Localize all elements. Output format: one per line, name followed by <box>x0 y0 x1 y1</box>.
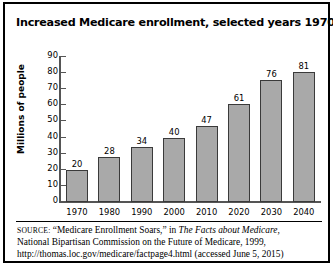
bar-group-2040: 81 <box>293 56 325 202</box>
x-tick-label-1970: 1970 <box>61 207 93 217</box>
bar-group-2020: 61 <box>228 56 260 202</box>
x-tick-label-2000: 2000 <box>158 207 190 217</box>
x-tick-label-2010: 2010 <box>191 207 223 217</box>
x-tick-label-1990: 1990 <box>126 207 158 217</box>
y-tick-label: 60 <box>47 98 58 108</box>
bar-value-1970: 20 <box>66 159 88 169</box>
y-tick-label: 20 <box>47 163 58 173</box>
y-tick-label: 40 <box>47 131 58 141</box>
y-tick-label: 10 <box>47 179 58 189</box>
source-note: SOURCE: “Medicare Enrollment Soars,” in … <box>17 225 325 260</box>
figure-container: Increased Medicare enrollment, selected … <box>0 0 333 266</box>
y-tick-label: 0 <box>53 195 58 205</box>
y-tick-label: 30 <box>47 147 58 157</box>
bar-value-1990: 34 <box>131 136 153 146</box>
source-label: SOURCE: <box>17 226 50 235</box>
bar-2030 <box>260 80 282 202</box>
bar-1970 <box>66 170 88 202</box>
source-line1-prefix: “Medicare Enrollment Soars,” in <box>50 225 178 235</box>
x-tick-label-2030: 2030 <box>255 207 287 217</box>
y-tick-label: 90 <box>47 50 58 60</box>
bar-2040 <box>293 72 315 203</box>
x-tick-label-2020: 2020 <box>223 207 255 217</box>
bar-value-2040: 81 <box>293 61 315 71</box>
chart-plot-area: Millions of people 0102030405060708090 2… <box>5 4 332 219</box>
bar-1980 <box>98 157 120 202</box>
source-divider <box>16 221 322 222</box>
bar-2010 <box>196 126 218 202</box>
y-axis-label: Millions of people <box>16 49 26 169</box>
bar-group-1980: 28 <box>98 56 130 202</box>
bar-1990 <box>131 147 153 202</box>
x-tick-label-2040: 2040 <box>288 207 320 217</box>
source-line3: http://thomas.loc.gov/medicare/factpage4… <box>17 249 284 259</box>
bar-value-2000: 40 <box>163 127 185 137</box>
bar-value-2030: 76 <box>260 69 282 79</box>
bar-group-2010: 47 <box>196 56 228 202</box>
bar-2020 <box>228 104 250 202</box>
bar-value-2010: 47 <box>196 115 218 125</box>
bar-group-1970: 20 <box>66 56 98 202</box>
y-tick-label: 80 <box>47 66 58 76</box>
bar-value-1980: 28 <box>98 146 120 156</box>
source-publication-title: The Facts about Medicare, <box>179 225 280 235</box>
y-tick-label: 50 <box>47 114 58 124</box>
figure-frame: Increased Medicare enrollment, selected … <box>3 2 330 263</box>
bar-2000 <box>163 138 185 202</box>
bar-group-1990: 34 <box>131 56 163 202</box>
y-tick-label: 70 <box>47 82 58 92</box>
x-tick-label-1980: 1980 <box>93 207 125 217</box>
bar-group-2000: 40 <box>163 56 195 202</box>
source-line2: National Bipartisan Commission on the Fu… <box>17 237 266 247</box>
bars-layer: 2028344047617681 <box>61 56 321 202</box>
bar-value-2020: 61 <box>228 93 250 103</box>
bar-group-2030: 76 <box>260 56 292 202</box>
